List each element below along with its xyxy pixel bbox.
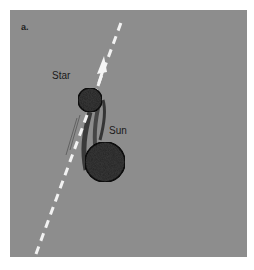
star-path-line: [36, 20, 122, 254]
sun-body: [85, 142, 125, 182]
star-label: Star: [52, 70, 70, 81]
star-body: [78, 88, 102, 112]
star-sun-diagram: [0, 0, 254, 270]
sun-label: Sun: [109, 125, 127, 136]
